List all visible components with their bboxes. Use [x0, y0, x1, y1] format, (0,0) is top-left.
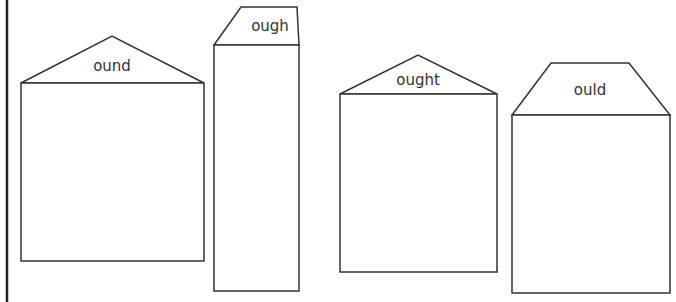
- house-label: ould: [574, 81, 606, 99]
- house-body-writing-area[interactable]: [21, 83, 204, 261]
- house-body-writing-area[interactable]: [512, 115, 670, 293]
- house-ough: ough: [214, 7, 299, 291]
- word-family-houses-worksheet: ound ough ought ould: [0, 0, 676, 302]
- house-ought: ought: [340, 55, 497, 272]
- house-label: ound: [93, 57, 131, 75]
- house-body-writing-area[interactable]: [214, 45, 299, 291]
- house-ould: ould: [512, 63, 670, 293]
- house-label: ought: [396, 71, 440, 89]
- house-body-writing-area[interactable]: [340, 94, 497, 272]
- house-ound: ound: [21, 36, 204, 261]
- house-label: ough: [251, 17, 289, 35]
